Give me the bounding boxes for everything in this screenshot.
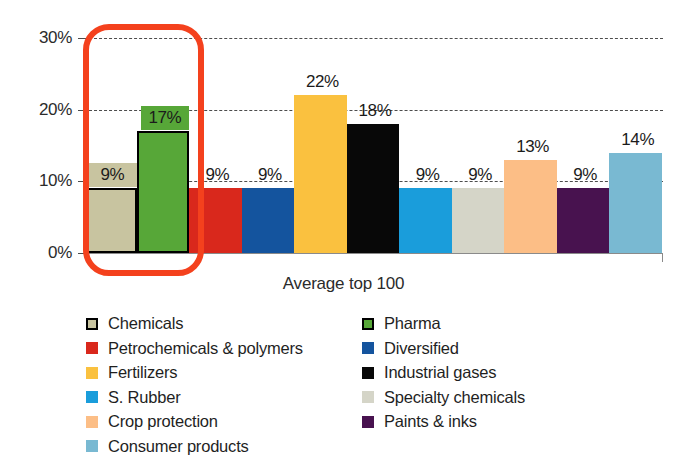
legend-item: Petrochemicals & polymers [86,337,303,360]
y-axis-tick-label: 30% [39,28,72,48]
bar-value-label: 18% [347,99,404,123]
x-axis-right-cap [662,253,663,262]
legend-swatch-icon [86,367,98,379]
legend-column-right: PharmaDiversifiedIndustrial gasesSpecial… [362,312,525,435]
x-axis-title: Average top 100 [0,274,687,294]
bar-value-label: 9% [452,163,509,187]
bar-paints-inks [557,188,610,253]
legend-item: S. Rubber [86,386,303,409]
bar-diversified [242,188,295,253]
bar-specialty-chemicals [452,188,505,253]
legend-item-label: Industrial gases [384,363,496,382]
legend-item-label: Fertilizers [108,363,177,382]
legend-item-label: Crop protection [108,412,218,431]
bar-value-label: 22% [294,70,351,94]
legend-item: Pharma [362,312,525,335]
legend-item-label: Petrochemicals & polymers [108,339,303,358]
legend-item: Paints & inks [362,410,525,433]
bar-chemicals [84,188,137,253]
bar-s-rubber [399,188,452,253]
legend-item: Chemicals [86,312,303,335]
bar-value-label: 9% [189,163,246,187]
y-axis-tick-label: 20% [39,100,72,120]
legend-swatch-icon [86,318,98,330]
legend-swatch-icon [86,342,98,354]
bar-pharma [137,131,190,253]
legend-swatch-icon [362,367,374,379]
plot-area: 0%10%20%30% 9%17%9%9%22%18%9%9%13%9%14% … [0,0,687,300]
bar-fertilizers [294,95,347,253]
bar-value-label: 9% [242,163,299,187]
y-axis-tick-label: 10% [39,171,72,191]
legend-item: Fertilizers [86,361,303,384]
bar-value-label: 14% [609,128,666,152]
legend-item-label: Chemicals [108,314,183,333]
legend-item: Industrial gases [362,361,525,384]
legend-swatch-icon [86,440,98,452]
bar-industrial-gases [347,124,400,253]
legend-swatch-icon [362,342,374,354]
bar-value-label: 9% [88,163,137,187]
legend-swatch-icon [86,416,98,428]
legend-item: Diversified [362,337,525,360]
bar-petrochemicals-polymers [189,188,242,253]
chart-legend: ChemicalsPetrochemicals & polymersFertil… [0,312,687,462]
legend-item-label: Pharma [384,314,441,333]
bar-crop-protection [504,160,557,253]
gridline [84,38,663,39]
chart-figure: 0%10%20%30% 9%17%9%9%22%18%9%9%13%9%14% … [0,0,687,465]
y-axis-tick-label: 0% [48,243,72,263]
legend-item: Specialty chemicals [362,386,525,409]
legend-swatch-icon [362,318,374,330]
legend-item: Consumer products [86,435,303,458]
legend-column-left: ChemicalsPetrochemicals & polymersFertil… [86,312,303,459]
legend-swatch-icon [86,391,98,403]
legend-item-label: S. Rubber [108,388,181,407]
legend-item-label: Specialty chemicals [384,388,525,407]
bar-value-label: 17% [141,106,190,130]
legend-item-label: Consumer products [108,437,249,456]
legend-item-label: Paints & inks [384,412,477,431]
legend-swatch-icon [362,391,374,403]
bar-value-label: 13% [504,135,561,159]
bar-consumer-products [609,153,662,253]
legend-item-label: Diversified [384,339,459,358]
bar-value-label: 9% [399,163,456,187]
legend-item: Crop protection [86,410,303,433]
legend-swatch-icon [362,416,374,428]
x-axis-line [84,253,663,254]
bar-value-label: 9% [557,163,614,187]
